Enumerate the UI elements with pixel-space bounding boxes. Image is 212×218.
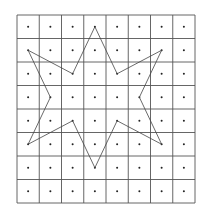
grid-dot [183, 120, 185, 122]
grid-dot [94, 73, 96, 75]
grid-dot [27, 190, 29, 192]
grid-dot [116, 190, 118, 192]
grid-dot [94, 96, 96, 98]
grid-dot [183, 73, 185, 75]
grid-dot [161, 73, 163, 75]
grid-dot [161, 167, 163, 169]
grid-dot [72, 143, 74, 145]
grid-dot [183, 167, 185, 169]
grid-dot [116, 96, 118, 98]
grid-dot [49, 143, 51, 145]
dot-grid-diagram [0, 0, 212, 218]
grid-dot [49, 73, 51, 75]
grid-dot [183, 49, 185, 51]
grid-dot [94, 143, 96, 145]
grid-dot [138, 167, 140, 169]
grid-dot [27, 73, 29, 75]
grid-dot [72, 96, 74, 98]
grid-dot [138, 49, 140, 51]
grid-dot [161, 26, 163, 28]
grid-dot [183, 143, 185, 145]
grid-dot [27, 26, 29, 28]
grid-dot [116, 26, 118, 28]
grid-dot [161, 190, 163, 192]
grid-dot [27, 96, 29, 98]
grid-dot [161, 96, 163, 98]
grid-dot [183, 96, 185, 98]
grid-dot [49, 190, 51, 192]
grid-dot [161, 120, 163, 122]
grid-lines [17, 15, 195, 203]
grid-dot [49, 167, 51, 169]
grid-dot [72, 49, 74, 51]
grid-dot [94, 49, 96, 51]
grid-dot [116, 143, 118, 145]
grid-dot [72, 26, 74, 28]
grid-dot [138, 73, 140, 75]
grid-dot [49, 120, 51, 122]
grid-dot [138, 190, 140, 192]
grid-dot [49, 49, 51, 51]
grid-dot [27, 120, 29, 122]
grid-dot [183, 26, 185, 28]
grid-dot [94, 120, 96, 122]
grid-dot [138, 120, 140, 122]
grid-dot [94, 190, 96, 192]
grid-dot [49, 26, 51, 28]
grid-dot [138, 143, 140, 145]
grid-dot [116, 167, 118, 169]
grid-dot [72, 167, 74, 169]
grid-dot [183, 190, 185, 192]
grid-dot [138, 26, 140, 28]
grid-dot [27, 167, 29, 169]
grid-dot [116, 49, 118, 51]
grid-dot [72, 190, 74, 192]
